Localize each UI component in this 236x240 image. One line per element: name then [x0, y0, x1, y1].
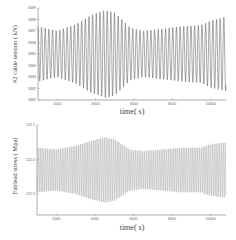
data-series-line: [38, 11, 226, 98]
y-tick-label: 3486: [28, 41, 36, 45]
x-tick-label: 6000: [130, 102, 138, 106]
x-tick-label: 8000: [168, 217, 176, 221]
y-tick-label: 3482: [28, 87, 36, 91]
plot-area: 200040006000800010000122.1122.0121.9: [26, 123, 226, 221]
y-tick-label: 122.1: [26, 123, 35, 127]
y-tick-label: 3484: [28, 64, 36, 68]
x-axis-title: time( s): [120, 107, 145, 116]
fairlead-stress-chart: 200040006000800010000122.1122.0121.9 tim…: [0, 120, 236, 240]
y-axis-title: Fairlead stress ( Mpa): [11, 138, 19, 195]
x-tick-label: 6000: [129, 217, 137, 221]
y-tick-label: 3487: [28, 29, 36, 33]
fairlead-stress-svg: 200040006000800010000122.1122.0121.9 tim…: [0, 120, 236, 240]
x-axis-title: time( s): [120, 223, 145, 232]
y-axis-title: #2 cable tension ( kN): [11, 25, 19, 83]
x-tick-label: 8000: [168, 102, 176, 106]
cable-tension-chart: 2000400060008000100003489348834873486348…: [0, 0, 236, 120]
y-tick-label: 121.9: [26, 192, 35, 196]
y-tick-label: 3481: [28, 98, 36, 102]
y-tick-label: 122.0: [26, 158, 35, 162]
x-tick-label: 2000: [52, 217, 60, 221]
cable-tension-svg: 2000400060008000100003489348834873486348…: [0, 0, 236, 120]
x-tick-label: 4000: [91, 217, 99, 221]
plot-area: 2000400060008000100003489348834873486348…: [28, 6, 226, 106]
x-tick-label: 10000: [206, 217, 216, 221]
x-tick-label: 10000: [206, 102, 216, 106]
x-tick-label: 4000: [92, 102, 100, 106]
y-tick-label: 3488: [28, 18, 36, 22]
y-tick-label: 3485: [28, 52, 36, 56]
x-tick-label: 2000: [53, 102, 61, 106]
y-tick-label: 3483: [28, 75, 36, 79]
data-series-line: [37, 137, 226, 202]
y-tick-label: 3489: [28, 6, 36, 10]
